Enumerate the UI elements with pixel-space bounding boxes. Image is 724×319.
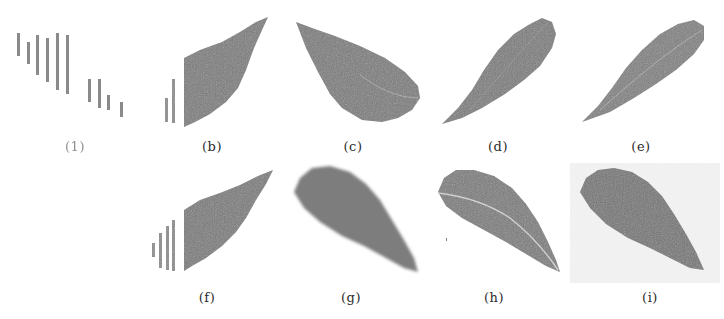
panel-g-leaf bbox=[294, 166, 418, 272]
panel-label-a: (1) bbox=[65, 139, 85, 154]
panel-label-h: (h) bbox=[484, 290, 504, 305]
panel-label-b: (b) bbox=[202, 139, 222, 154]
panel-d-leaf bbox=[442, 18, 556, 124]
panel-e-leaf bbox=[582, 20, 704, 122]
panel-label-d: (d) bbox=[488, 139, 508, 154]
panel-i-leaf bbox=[570, 163, 720, 283]
panel-label-f: (f) bbox=[199, 290, 215, 305]
panel-a-bars bbox=[17, 33, 123, 117]
panel-label-e: (e) bbox=[631, 139, 650, 154]
panel-f-leaf bbox=[152, 170, 273, 271]
panel-h-leaf bbox=[438, 170, 560, 272]
figure-leaf-augmentations: (1) (b) (c) (d) (e) (f) (g) (h) (i) bbox=[0, 0, 724, 319]
panel-label-c: (c) bbox=[344, 139, 363, 154]
panel-c-leaf bbox=[296, 22, 420, 122]
panel-label-i: (i) bbox=[642, 290, 658, 305]
panel-b-leaf bbox=[165, 17, 268, 127]
figure-canvas bbox=[0, 0, 724, 319]
panel-label-g: (g) bbox=[341, 290, 361, 305]
